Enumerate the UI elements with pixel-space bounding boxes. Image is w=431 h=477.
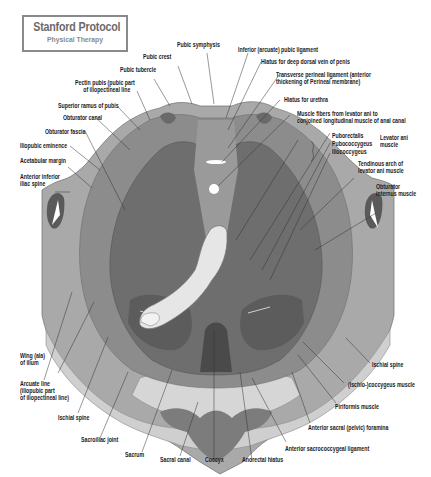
label-arcuate-line-line1: Arcuate line [20,380,50,387]
label-pectin-pubis-line1: Pectin pubis (pubic part [75,79,135,86]
label-sacrum: Sacrum [125,451,144,458]
label-iliopubic-eminence: Iliopubic eminence [20,142,67,149]
label-arcuate-line-line2: (iliopubic part [20,387,55,394]
label-obturator-internus-line2: internus muscle [376,190,416,197]
label-ischial-spine-right: Ischial spine [372,361,403,368]
label-pubic-symphysis: Pubic symphysis [177,41,220,48]
label-obturator-internus-line1: Obturator [376,183,400,190]
label-arcuate-line-line3: of iliopectineal line) [20,394,69,401]
label-obturator-canal: Obturator canal [63,114,102,121]
label-inferior-pubic-ligament: Inferior (arcuate) pubic ligament [238,46,318,53]
label-muscle-fibers: Muscle fibers from levator ani toconjoin… [297,110,406,124]
label-obturator-internus: Obturatorinternus muscle [376,183,416,197]
pelvic-floor-diagram: Stanford Protocol Physical Therapy [0,0,431,477]
label-arcuate-line: Arcuate line(iliopubic partof iliopectin… [20,380,69,402]
label-tendinous-arch: Tendinous arch oflevator ani muscle [358,160,404,174]
label-levator-ani-line2: muscle [380,141,398,148]
label-acetabular-margin: Acetabular margin [20,157,66,164]
label-pectin-pubis: Pectin pubis (pubic partof iliopectineal… [75,79,135,93]
label-hiatus-dorsal-vein: Hiatus for deep dorsal vein of penis [261,58,350,65]
label-aiis-line2: iliac spine [20,180,45,187]
label-tendinous-arch-line1: Tendinous arch of [358,160,403,167]
label-ischial-spine-left: Ischial spine [58,414,89,421]
label-pubococcygeus: Pubococcygeus [332,140,372,147]
label-anterior-sacrococcygeal-ligament: Anterior sacrococcygeal ligament [285,445,369,452]
label-piriformis-muscle: Piriformis muscle [335,403,379,410]
label-aiis-line1: Anterior inferior [20,173,60,180]
label-sacral-canal: Sacral canal [160,456,191,463]
label-tpl-line1: Transverse perineal ligament (anterior [276,71,371,78]
label-tpl-line2: thickening of Perineal membrane) [276,78,360,85]
hiatus-urethra [209,184,219,194]
label-transverse-perineal-ligament: Transverse perineal ligament (anteriorth… [276,71,371,85]
label-iliococcygeus: Iliococcygeus [332,148,367,155]
label-wing-ilium-line2: of ilium [20,359,39,366]
label-wing-ilium: Wing (ala)of ilium [20,352,45,366]
label-pubic-tubercle: Pubic tubercle [120,66,156,73]
label-pectin-pubis-line2: of iliopectineal line [75,86,130,93]
label-ischiococcygeus-muscle: (Ischio-)coccygeus muscle [348,381,415,388]
label-tendinous-arch-line2: levator ani muscle [358,167,404,174]
label-anterior-inferior-iliac-spine: Anterior inferioriliac spine [20,173,60,187]
label-anterior-sacral-foramina: Anterior sacral (pelvic) foramina [308,424,388,431]
label-muscle-fibers-line1: Muscle fibers from levator ani to [297,110,378,117]
label-muscle-fibers-line2: conjoined longitudinal muscle of anal ca… [297,117,406,124]
label-wing-ilium-line1: Wing (ala) [20,352,45,359]
label-anorectal-hiatus: Anorectal hiatus [242,456,283,463]
label-levator-ani-line1: Levator ani [380,134,408,141]
label-hiatus-urethra: Hiatus for urethra [284,96,328,103]
label-levator-ani-muscle: Levator animuscle [380,134,408,148]
label-superior-ramus: Superior ramus of pubis [58,102,119,109]
label-puborectalis: Puborectalis [332,132,363,139]
label-sacroiliac-joint: Sacroiliac joint [81,436,118,443]
label-coccyx: Coccyx [205,456,224,463]
label-pubic-crest: Pubic crest [143,53,171,60]
label-obturator-fascia: Obturator fascia [45,128,85,135]
